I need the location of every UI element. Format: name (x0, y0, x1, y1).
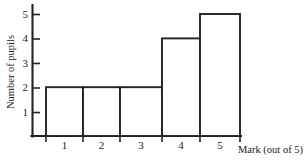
y-tick-label-1: 1 (23, 106, 29, 118)
y-tick-label-4: 4 (23, 32, 29, 44)
x-axis-title: Mark (out of 5) (238, 144, 304, 156)
bar-mark-4 (162, 38, 200, 136)
x-tick-label-2: 2 (99, 139, 105, 151)
x-tick-label-5: 5 (217, 139, 223, 151)
y-axis-title: Number of pupils (5, 35, 16, 109)
y-tick-label-3: 3 (23, 57, 29, 69)
bar-mark-3 (120, 87, 162, 136)
bar-group (46, 14, 240, 136)
x-tick-label-3: 3 (138, 139, 144, 151)
y-tick-label-2: 2 (23, 81, 29, 93)
x-tick-label-4: 4 (178, 139, 184, 151)
chart-page: 5 4 3 2 1 1 2 3 4 5 Number of pupils (0, 0, 308, 161)
x-tick-label-1: 1 (62, 139, 68, 151)
y-tick-label-5: 5 (23, 8, 29, 20)
bar-chart: 5 4 3 2 1 1 2 3 4 5 Number of pupils (0, 0, 308, 161)
bar-mark-2 (83, 87, 120, 136)
bar-mark-5 (200, 14, 240, 136)
bar-mark-1 (46, 87, 83, 136)
